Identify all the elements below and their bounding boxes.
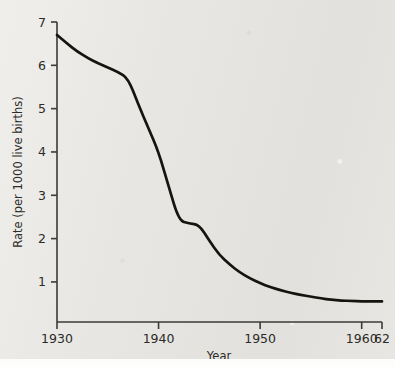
x-tick-label: 1950 [244,331,276,346]
x-tick-label: 1930 [41,331,73,346]
x-tick-label: 62 [374,331,390,346]
x-tick-label: 1960 [346,331,378,346]
y-tick-label: 1 [38,274,46,289]
y-tick-label: 6 [38,58,46,73]
y-tick-label: 3 [38,188,46,203]
y-axis-title: Rate (per 1000 live births) [11,96,25,248]
x-axis-tick-labels: 193019401950196062 [41,331,390,346]
line-chart-plot: 1234567 193019401950196062 Year Rate (pe… [0,0,395,367]
x-axis-ticks [57,322,382,329]
y-tick-label: 4 [38,144,46,159]
x-tick-label: 1940 [143,331,175,346]
y-tick-label: 5 [38,101,46,116]
y-axis-ticks [51,22,57,282]
y-tick-label: 2 [38,231,46,246]
chart-figure: 1234567 193019401950196062 Year Rate (pe… [0,0,395,367]
y-tick-label: 7 [38,15,46,30]
y-axis-tick-labels: 1234567 [38,15,46,290]
page-bottom-margin [0,359,395,367]
data-series-line [57,35,382,301]
